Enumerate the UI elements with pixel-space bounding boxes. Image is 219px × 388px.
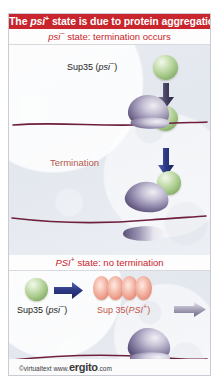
- footer-tld: .com: [98, 365, 112, 372]
- ergito-brand: ergito: [69, 361, 98, 373]
- figure-title: The psi+ state is due to protein aggrega…: [9, 14, 210, 29]
- aggregate-unit: [135, 276, 152, 300]
- section-header-italic: psi: [48, 31, 60, 42]
- arrow-right-blue-icon: [54, 282, 84, 299]
- footer-www: www.: [53, 365, 69, 372]
- section-header-rest: state: no termination: [75, 257, 164, 268]
- title-italic-psi: psi: [30, 15, 45, 27]
- label-prefix: Sup 35(: [97, 305, 129, 315]
- label-sup35-aggregate: Sup 35(PSI+): [97, 305, 150, 315]
- figure-root: The psi+ state is due to protein aggrega…: [0, 0, 219, 388]
- ribosome-large-subunit: [121, 181, 173, 215]
- footer-copyright: ©virtualtext: [19, 365, 52, 372]
- panel-psi-minus: Sup35 (psi−): [9, 45, 210, 255]
- label-prefix: Sup35 (: [17, 305, 49, 315]
- sup35-green-sphere: [153, 55, 178, 80]
- title-prefix: The: [9, 15, 30, 27]
- ribosome-assembled-1: [122, 93, 174, 135]
- mrna-strand-1: [9, 117, 210, 131]
- section-header-psi-minus: psi− state: termination occurs: [9, 29, 210, 45]
- title-suffix: state is due to protein aggregation: [49, 15, 210, 27]
- label-termination: Termination: [50, 157, 99, 168]
- figure-footer: ©virtualtext www.ergito.com: [9, 359, 210, 375]
- label-italic: psi: [49, 305, 61, 315]
- arrow-right-grey-icon: [174, 302, 207, 317]
- label-suffix: ): [114, 62, 117, 72]
- label-suffix: ): [147, 305, 150, 315]
- mrna-strand-2: [9, 212, 210, 226]
- label-sup35-monomer: Sup35 (psi−): [17, 305, 67, 315]
- ribosome-small-subunit: [122, 225, 168, 243]
- label-prefix: Sup35 (: [67, 62, 99, 72]
- label-italic: psi: [99, 62, 111, 72]
- label-suffix: ): [64, 305, 67, 315]
- label-italic: PSI: [129, 305, 144, 315]
- section-header-italic: PSI: [55, 257, 70, 268]
- label-sup35-psi-minus: Sup35 (psi−): [67, 62, 117, 72]
- section-header-rest: state: termination occurs: [65, 31, 171, 42]
- sup35-green-sphere-monomer: [25, 278, 48, 301]
- section-header-psi-plus: PSI+ state: no termination: [9, 255, 210, 271]
- sup35-aggregate: [93, 276, 149, 300]
